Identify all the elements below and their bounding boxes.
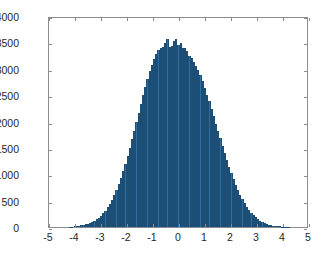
y-tick-label: 0 (13, 223, 19, 234)
y-tick-mark (49, 44, 52, 45)
x-tick-mark (231, 224, 232, 227)
y-tick-mark (49, 203, 52, 204)
y-tick-label: 2000 (0, 118, 19, 129)
x-tick-mark (205, 224, 206, 227)
x-tick-mark (153, 224, 154, 227)
y-tick-mark (304, 124, 307, 125)
x-tick-mark (309, 18, 310, 21)
y-tick-mark (49, 176, 52, 177)
x-tick-mark (283, 224, 284, 227)
x-tick-mark (283, 18, 284, 21)
y-tick-mark (304, 44, 307, 45)
x-tick-label: -2 (116, 232, 136, 243)
x-tick-mark (231, 18, 232, 21)
y-tick-label: 500 (1, 197, 19, 208)
figure-canvas: 05001000150020002500300035004000 -5-4-3-… (0, 0, 331, 262)
y-tick-mark (304, 71, 307, 72)
x-tick-label: 1 (194, 232, 214, 243)
x-tick-label: -3 (90, 232, 110, 243)
y-tick-mark (49, 71, 52, 72)
y-tick-mark (304, 229, 307, 230)
x-tick-label: 4 (272, 232, 292, 243)
y-tick-mark (49, 124, 52, 125)
y-tick-label: 3000 (0, 65, 19, 76)
x-tick-label: 3 (246, 232, 266, 243)
x-tick-mark (257, 224, 258, 227)
y-tick-mark (304, 203, 307, 204)
y-tick-mark (49, 150, 52, 151)
x-tick-label: -1 (142, 232, 162, 243)
x-tick-mark (309, 224, 310, 227)
x-tick-mark (127, 224, 128, 227)
x-tick-mark (153, 18, 154, 21)
y-tick-mark (304, 97, 307, 98)
x-tick-mark (75, 224, 76, 227)
y-tick-label: 2500 (0, 91, 19, 102)
y-tick-label: 1500 (0, 144, 19, 155)
x-tick-label: 5 (298, 232, 318, 243)
x-tick-mark (49, 224, 50, 227)
y-tick-label: 4000 (0, 12, 19, 23)
x-tick-mark (179, 224, 180, 227)
x-tick-mark (127, 18, 128, 21)
x-tick-mark (205, 18, 206, 21)
x-tick-mark (75, 18, 76, 21)
y-tick-mark (49, 229, 52, 230)
x-tick-label: -4 (64, 232, 84, 243)
y-tick-mark (304, 18, 307, 19)
x-tick-mark (101, 224, 102, 227)
y-tick-label: 1000 (0, 170, 19, 181)
histogram-bar (288, 227, 290, 228)
histogram-bars (49, 18, 307, 227)
x-tick-mark (101, 18, 102, 21)
x-tick-label: -5 (38, 232, 58, 243)
y-tick-mark (49, 97, 52, 98)
y-tick-mark (304, 176, 307, 177)
x-tick-mark (49, 18, 50, 21)
x-tick-label: 2 (220, 232, 240, 243)
x-tick-mark (257, 18, 258, 21)
x-tick-mark (179, 18, 180, 21)
y-tick-label: 3500 (0, 38, 19, 49)
plot-area (48, 17, 308, 228)
x-tick-label: 0 (168, 232, 188, 243)
y-tick-mark (304, 150, 307, 151)
